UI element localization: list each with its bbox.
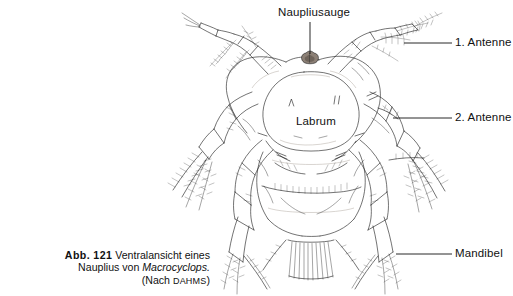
label-first-antenna: 1. Antenne [455,36,512,49]
label-labrum: Labrum [296,115,336,128]
mandible-left [221,140,273,294]
caption-line-1: Ventralansicht eines [115,249,210,261]
caption-source-author: Dahms [173,276,207,286]
caption-species-name: Macrocyclops. [142,261,210,273]
mandible-right [349,140,424,294]
first-antenna-left [182,13,281,78]
figure-number: Abb. 121 [65,249,112,261]
caption-source-suffix: ) [206,274,210,286]
first-antenna-right [328,12,442,80]
labrum-outline [263,72,359,151]
second-antenna-right [364,92,448,212]
label-naupliar-eye: Naupliusauge [278,6,350,19]
trunk-outline [257,152,366,280]
limb-details [258,133,364,174]
cephalic-shield [226,56,380,143]
label-mandible: Mandibel [455,247,503,260]
label-second-antenna: 2. Antenne [455,111,512,124]
caption-line-2-prefix: Nauplius von [78,261,142,273]
second-antenna-left [168,92,258,210]
caption-source-prefix: (Nach [142,274,173,286]
figure-container: Naupliusauge 1. Antenne 2. Antenne Mandi… [0,0,513,296]
figure-caption: Abb. 121 Ventralansicht eines Nauplius v… [4,249,210,287]
